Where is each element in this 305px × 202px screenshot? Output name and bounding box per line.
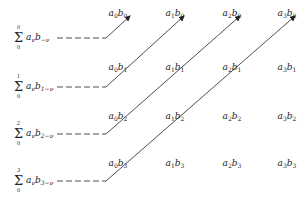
term-a2-b3: a2b3 [223,159,242,169]
term-a3-b1: a3b1 [278,63,297,73]
term-a3-b3: a3b3 [278,159,297,169]
partial-sum-2: 2Σ0aνb2−ν [14,122,53,146]
term-a0-b3: a0b3 [109,159,128,169]
term-a0-b2: a0b2 [109,112,128,122]
sigma-icon: Σ [14,80,23,93]
partial-sum-3: 3Σ0aνb3−ν [14,169,53,193]
sigma-icon: Σ [14,174,23,187]
term-a3-b2: a3b2 [278,112,297,122]
term-a1-b2: a1b2 [166,112,185,122]
term-a2-b1: a2b1 [223,63,242,73]
path-sum-3 [57,16,295,181]
partial-sum-1: 1Σ0aνb1−ν [14,75,53,99]
term-a0-b0: a0b0 [109,9,128,19]
path-sum-2 [57,16,240,134]
term-a2-b0: a2b0 [223,9,242,19]
sigma-icon: Σ [14,31,23,44]
term-a0-b1: a0b1 [109,63,128,73]
term-a2-b2: a2b2 [223,112,242,122]
path-sum-0 [57,16,130,38]
path-sum-1 [57,16,184,87]
sigma-icon: Σ [14,127,23,140]
partial-sum-0: 0Σ0aνb−ν [14,26,49,50]
term-a1-b1: a1b1 [166,63,185,73]
term-a1-b0: a1b0 [166,9,185,19]
term-a3-b0: a3b0 [278,9,297,19]
term-a1-b3: a1b3 [166,159,185,169]
